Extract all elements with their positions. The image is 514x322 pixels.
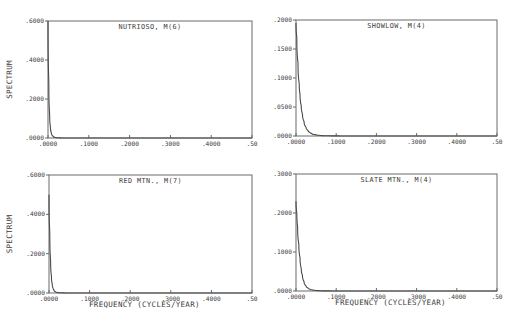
x-axis-label: FREQUENCY (CYCLES/YEAR) [89, 300, 200, 309]
plot-frame [49, 175, 252, 293]
chart-panel-nutrioso-m-6: NUTRIOSO, M(6).0000.1000.2000.3000.4000.… [5, 17, 258, 147]
plot-frame [296, 174, 497, 291]
x-tick-label: .50 [246, 295, 257, 302]
x-tick-label: .3000 [161, 140, 180, 147]
x-tick-label: .50 [491, 138, 502, 145]
plot-frame [296, 20, 497, 136]
y-tick-label: .1000 [273, 74, 292, 81]
chart-panel-slate-mtn-m-4: SLATE MTN., M(4).0000.1000.2000.3000.400… [273, 170, 502, 307]
y-tick-label: .2000 [273, 209, 292, 216]
y-tick-label: .2000 [273, 16, 292, 23]
y-tick-label: .6000 [25, 17, 44, 24]
chart-title: NUTRIOSO, M(6) [119, 23, 182, 31]
spectrum-figure: NUTRIOSO, M(6).0000.1000.2000.3000.4000.… [0, 0, 514, 322]
x-axis: .0000.1000.2000.3000.4000.50 [39, 135, 258, 147]
x-tick-label: .2000 [367, 138, 386, 145]
y-tick-label: .4000 [26, 210, 45, 217]
x-tick-label: .50 [491, 293, 502, 300]
y-tick-label: .2000 [25, 95, 44, 102]
chart-panel-red-mtn-m-7: RED MTN., M(7).0000.1000.2000.3000.4000.… [5, 171, 258, 309]
x-tick-label: .4000 [447, 138, 466, 145]
spectrum-curve [49, 195, 252, 293]
x-axis-label: FREQUENCY (CYCLES/YEAR) [335, 298, 446, 307]
chart-title: SHOWLOW, M(4) [367, 22, 425, 30]
y-axis: .0000.2000.4000.6000 [26, 171, 49, 296]
chart-title: SLATE MTN., M(4) [361, 176, 433, 184]
x-tick-label: .4000 [202, 140, 221, 147]
spectrum-curve [296, 201, 497, 291]
spectrum-curve [296, 23, 497, 136]
x-tick-label: .0000 [287, 138, 306, 145]
plot-frame [48, 21, 252, 138]
y-tick-label: .1500 [273, 45, 292, 52]
x-tick-label: .4000 [202, 295, 221, 302]
x-tick-label: .0000 [40, 295, 59, 302]
y-tick-label: .6000 [26, 171, 45, 178]
y-tick-label: .4000 [25, 56, 44, 63]
y-tick-label: .0000 [26, 289, 45, 296]
y-tick-label: .0500 [273, 103, 292, 110]
x-tick-label: .0000 [287, 293, 306, 300]
y-tick-label: .1000 [273, 248, 292, 255]
y-tick-label: .2000 [26, 250, 45, 257]
y-tick-label: .3000 [273, 170, 292, 177]
y-tick-label: .0000 [25, 134, 44, 141]
y-axis: .0000.1000.2000.3000 [273, 170, 296, 294]
y-axis: .0000.2000.4000.6000 [25, 17, 48, 141]
x-tick-label: .1000 [79, 140, 98, 147]
x-tick-label: .4000 [447, 293, 466, 300]
chart-panel-showlow-m-4: SHOWLOW, M(4).0000.1000.2000.3000.4000.5… [273, 16, 502, 145]
y-axis: .0000.0500.1000.1500.2000 [273, 16, 296, 139]
x-tick-label: .0000 [39, 140, 58, 147]
y-axis-label: SPECTRUM [5, 215, 14, 254]
x-tick-label: .2000 [120, 140, 139, 147]
x-tick-label: .1000 [327, 138, 346, 145]
y-tick-label: .0000 [273, 132, 292, 139]
x-tick-label: .3000 [407, 138, 426, 145]
chart-title: RED MTN., M(7) [119, 177, 182, 185]
y-tick-label: .0000 [273, 287, 292, 294]
spectrum-curve [48, 21, 252, 138]
x-tick-label: .50 [246, 140, 257, 147]
y-axis-label: SPECTRUM [5, 60, 14, 99]
